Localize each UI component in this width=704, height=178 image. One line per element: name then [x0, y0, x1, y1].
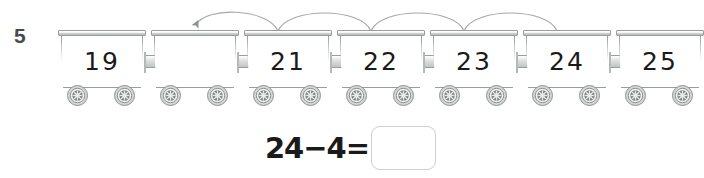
wheel-icon — [253, 85, 274, 106]
wheel-icon — [579, 85, 600, 106]
number-train: 192122232425 — [0, 0, 701, 112]
wheel-icon — [346, 85, 367, 106]
wheel-icon — [439, 85, 460, 106]
equation-expression: 24−4= — [265, 131, 369, 165]
cart-number: 25 — [616, 36, 704, 88]
train-cart[interactable]: 24 — [523, 30, 611, 110]
wheel-icon — [160, 85, 181, 106]
wheel-icon — [114, 85, 135, 106]
wheel-icon — [672, 85, 693, 106]
cart-number: 19 — [58, 36, 146, 88]
cart-number-blank[interactable] — [151, 36, 239, 88]
train-cart[interactable]: 19 — [58, 30, 146, 110]
equation-row: 24−4= — [0, 126, 701, 170]
cart-number: 22 — [337, 36, 425, 88]
train-cart[interactable] — [151, 30, 239, 110]
answer-input-box[interactable] — [371, 126, 436, 170]
train-cart[interactable]: 23 — [430, 30, 518, 110]
cart-number: 23 — [430, 36, 518, 88]
train-cart[interactable]: 21 — [244, 30, 332, 110]
wheel-icon — [393, 85, 414, 106]
wheel-icon — [625, 85, 646, 106]
wheel-icon — [486, 85, 507, 106]
wheel-icon — [207, 85, 228, 106]
cart-number: 24 — [523, 36, 611, 88]
cart-number: 21 — [244, 36, 332, 88]
train-cart[interactable]: 22 — [337, 30, 425, 110]
wheel-icon — [532, 85, 553, 106]
wheel-icon — [67, 85, 88, 106]
train-cart[interactable]: 25 — [616, 30, 704, 110]
wheel-icon — [300, 85, 321, 106]
